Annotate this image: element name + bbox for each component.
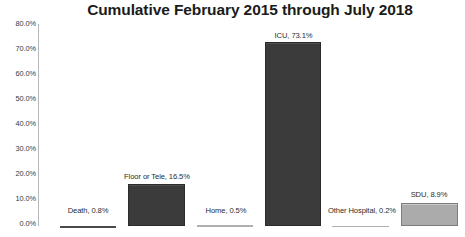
bar-home[interactable] [197, 225, 253, 227]
data-label-floor-or-tele: Floor or Tele, 16.5% [112, 172, 202, 181]
y-tick-80: 80.0% [2, 20, 36, 28]
y-tick-10: 10.0% [2, 195, 36, 203]
bar-other-hospital[interactable] [332, 226, 389, 227]
data-label-sdu: SDU, 8.9% [394, 190, 464, 199]
y-tick-40: 40.0% [2, 120, 36, 128]
data-label-death: Death, 0.8% [48, 206, 128, 215]
y-tick-20: 20.0% [2, 170, 36, 178]
bar-death[interactable] [60, 226, 116, 228]
y-tick-60: 60.0% [2, 70, 36, 78]
data-label-icu: ICU, 73.1% [255, 31, 332, 40]
y-axis-labels: 80.0% 70.0% 60.0% 50.0% 40.0% 30.0% 20.0… [0, 0, 36, 237]
data-label-home: Home, 0.5% [186, 206, 266, 215]
y-tick-0: 0.0% [2, 220, 36, 228]
bar-icu[interactable] [265, 42, 321, 226]
data-label-other-hospital: Other Hospital, 0.2% [312, 206, 412, 215]
y-tick-30: 30.0% [2, 145, 36, 153]
chart-title: Cumulative February 2015 through July 20… [40, 1, 460, 19]
bar-floor-or-tele[interactable] [128, 184, 185, 226]
y-axis-line [38, 24, 39, 226]
bar-sdu[interactable] [401, 203, 458, 226]
bar-chart: Cumulative February 2015 through July 20… [0, 0, 465, 237]
y-tick-70: 70.0% [2, 45, 36, 53]
y-tick-50: 50.0% [2, 95, 36, 103]
